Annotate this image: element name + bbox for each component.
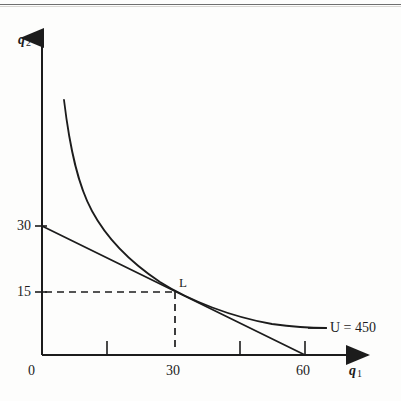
tangency-point-label: L: [179, 276, 187, 289]
budget-line: [42, 226, 305, 355]
indifference-curve: [64, 100, 326, 328]
y-tick-label-30: 30: [17, 219, 31, 233]
x-axis-label-sub: 1: [356, 368, 362, 379]
x-axis-label: q1: [349, 364, 362, 379]
y-axis-label-text: q: [18, 32, 25, 47]
y-tick-label-15: 15: [17, 285, 31, 299]
x-tick-label-60: 60: [296, 364, 310, 378]
y-axis-label: q2: [18, 33, 31, 48]
x-axis-label-text: q: [349, 363, 356, 378]
origin-tick-label: 0: [28, 364, 35, 378]
figure-container: q2 q1 0 30 15 30 60 L U = 450: [0, 0, 401, 401]
plot-svg: [0, 0, 401, 401]
y-axis-label-sub: 2: [25, 37, 31, 48]
indifference-curve-label: U = 450: [330, 321, 376, 335]
x-tick-label-30: 30: [166, 364, 180, 378]
